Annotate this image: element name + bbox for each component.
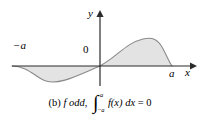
y-axis-arrowhead (96, 10, 103, 17)
origin-label: 0 (83, 44, 89, 55)
integral-expression: ∫ a −a (91, 92, 107, 114)
plot-area: y x −a a 0 (0, 0, 200, 90)
shaded-region-positive (100, 38, 172, 66)
integral-upper-limit: a (100, 92, 103, 99)
caption-condition: f odd, (63, 98, 87, 109)
caption-equals-zero: = 0 (138, 98, 152, 109)
caption-integrand: f(x) dx (108, 98, 135, 109)
integral-lower-limit: −a (97, 107, 105, 114)
a-tick-label: a (169, 68, 175, 79)
x-axis-label: x (185, 67, 190, 78)
caption-part-label: (b) (49, 98, 61, 109)
odd-function-figure: y x −a a 0 (b) f odd, ∫ a −a f(x) dx = 0 (0, 0, 200, 123)
figure-caption: (b) f odd, ∫ a −a f(x) dx = 0 (0, 92, 200, 114)
negative-a-tick-label: −a (13, 40, 26, 51)
y-axis-label: y (88, 8, 93, 19)
x-axis-arrowhead (190, 62, 197, 69)
